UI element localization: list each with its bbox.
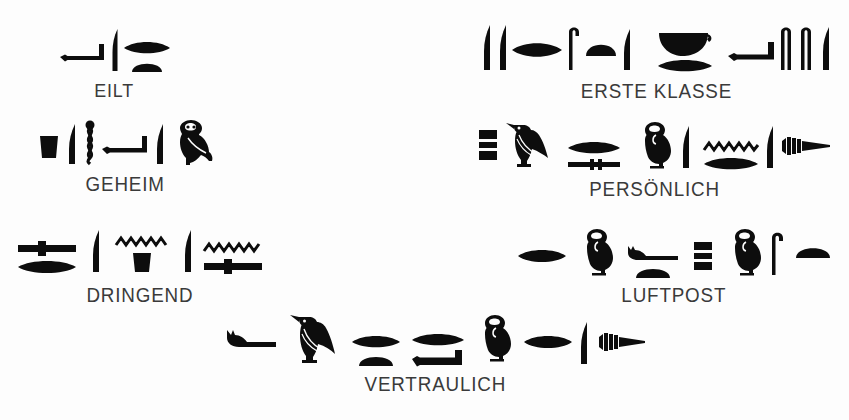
caption-luftpost: LUFTPOST bbox=[622, 285, 727, 305]
arm-glyph bbox=[58, 26, 106, 74]
water-glyph bbox=[202, 240, 264, 256]
caption-dringend: DRINGEND bbox=[86, 285, 193, 305]
feather-glyph bbox=[62, 118, 80, 168]
mouth-glyph bbox=[656, 57, 714, 74]
horned-viper-glyph bbox=[624, 242, 682, 262]
bolt-glyph bbox=[566, 156, 622, 172]
bolt-glyph bbox=[16, 238, 78, 258]
arm-glyph bbox=[410, 348, 466, 368]
mouth-glyph bbox=[123, 39, 171, 56]
glyph-stack bbox=[350, 333, 402, 368]
owl-glyph bbox=[576, 228, 618, 280]
glyph-row bbox=[476, 118, 834, 172]
reed-glyph bbox=[106, 26, 123, 74]
half-loaf-glyph bbox=[794, 228, 832, 280]
caption-vertraulich: VERTRAULICH bbox=[364, 374, 506, 394]
vulture-glyph bbox=[284, 312, 340, 368]
glyph-group-geheim: GEHEIM bbox=[36, 118, 214, 194]
glyph-stack bbox=[566, 139, 622, 172]
feather-glyph bbox=[676, 118, 694, 172]
glyph-row bbox=[16, 224, 264, 276]
glyph-group-eilt: EILT bbox=[58, 26, 171, 100]
glyph-row bbox=[516, 228, 832, 280]
stool-glyph bbox=[476, 118, 500, 172]
half-loaf-glyph bbox=[633, 262, 673, 280]
twisted-flax-glyph bbox=[80, 118, 100, 168]
hieroglyph-sheet: EILT bbox=[0, 0, 849, 420]
owl-glyph bbox=[634, 118, 676, 172]
water-glyph bbox=[114, 234, 170, 250]
arm-glyph bbox=[100, 118, 150, 168]
half-loaf-glyph bbox=[131, 56, 163, 74]
crook-glyph bbox=[776, 22, 796, 74]
basket-glyph bbox=[656, 29, 714, 57]
glyph-stack bbox=[114, 234, 170, 276]
feather-glyph bbox=[86, 224, 104, 276]
half-loaf-glyph bbox=[357, 350, 395, 368]
crook-glyph bbox=[796, 22, 816, 74]
glyph-group-persoenlich: PERSÖNLICH bbox=[476, 118, 834, 199]
owl-glyph bbox=[474, 312, 516, 368]
reed-glyph bbox=[478, 22, 494, 74]
glyph-row bbox=[36, 118, 214, 168]
crook-glyph bbox=[564, 22, 584, 74]
caption-geheim: GEHEIM bbox=[85, 174, 164, 194]
mouth-glyph bbox=[350, 333, 402, 350]
wick-glyph bbox=[596, 312, 648, 368]
arm-glyph bbox=[726, 22, 776, 74]
crook-glyph bbox=[766, 228, 788, 280]
glyph-stack bbox=[624, 242, 682, 280]
mouth-glyph bbox=[510, 22, 564, 74]
horned-viper-glyph bbox=[222, 312, 280, 368]
glyph-stack bbox=[410, 331, 466, 368]
mouth-glyph bbox=[516, 228, 568, 280]
stool-glyph bbox=[690, 228, 716, 280]
owl-glyph bbox=[168, 118, 214, 168]
water-glyph bbox=[702, 139, 760, 155]
wick-glyph bbox=[778, 118, 834, 172]
glyph-group-vertraulich: VERTRAULICH bbox=[222, 312, 648, 394]
glyph-group-luftpost: LUFTPOST bbox=[516, 228, 832, 305]
jar-stand-glyph bbox=[36, 118, 62, 168]
mouth-glyph bbox=[702, 155, 760, 172]
glyph-group-dringend: DRINGEND bbox=[16, 224, 264, 305]
feather-glyph bbox=[574, 312, 592, 368]
caption-erste-klasse: ERSTE KLASSE bbox=[580, 81, 731, 101]
reed-glyph bbox=[618, 22, 634, 74]
glyph-row bbox=[58, 26, 171, 74]
caption-eilt: EILT bbox=[95, 81, 135, 100]
mouth-glyph bbox=[16, 258, 78, 276]
mouth-glyph bbox=[566, 139, 622, 156]
glyph-group-erste-klasse: ERSTE KLASSE bbox=[478, 22, 834, 101]
glyph-row bbox=[222, 312, 648, 368]
owl-glyph bbox=[724, 228, 766, 280]
vulture-glyph bbox=[500, 118, 552, 172]
half-loaf-glyph bbox=[584, 22, 618, 74]
jar-stand-glyph bbox=[126, 250, 158, 276]
mouth-glyph bbox=[522, 312, 574, 368]
glyph-stack bbox=[656, 29, 714, 74]
glyph-stack bbox=[123, 39, 171, 74]
feather-glyph bbox=[760, 118, 778, 172]
glyph-stack bbox=[16, 238, 78, 276]
feather-glyph bbox=[178, 224, 196, 276]
reed-glyph bbox=[494, 22, 510, 74]
glyph-stack bbox=[202, 240, 264, 276]
bolt-glyph bbox=[202, 256, 264, 276]
glyph-row bbox=[478, 22, 834, 74]
reed-glyph bbox=[816, 22, 834, 74]
reed-glyph bbox=[150, 118, 168, 168]
glyph-stack bbox=[702, 139, 760, 172]
mouth-glyph bbox=[410, 331, 466, 348]
caption-persoenlich: PERSÖNLICH bbox=[590, 179, 721, 199]
